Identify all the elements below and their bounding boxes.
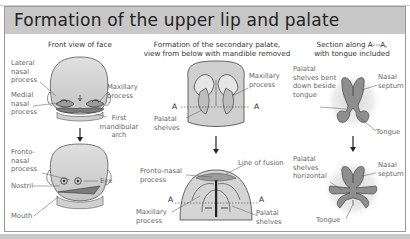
label-nostril: Nostril [11,182,33,191]
label-palatal-shelves-2: Palatal shelves [256,209,284,226]
label-fronto-nasal-process-2: Fronto-nasal process [140,167,190,184]
column-heading-secondary-palate: Formation of the secondary palate, view … [142,40,292,58]
heading-line-1: Section along A---A, [300,40,404,49]
label-medial-nasal-process: Medial nasal process [11,91,41,117]
column-heading-front-view: Front view of face [20,40,140,49]
down-arrow-1 [77,128,83,142]
heading-line-1: Formation of the secondary palate, [142,40,292,49]
down-arrow-3 [350,136,356,152]
label-maxillary-process-3: Maxillary process [136,208,172,225]
label-fronto-nasal-process: Fronto-nasal process [11,148,41,174]
section-marker-left: A [172,103,177,112]
section-marker-right-2: A [259,196,264,205]
label-palatal-shelves-horizontal: Palatal shelves horizontal [293,155,333,181]
label-first-mandibular-arch: First mandibular arch [99,114,139,140]
label-mouth: Mouth [11,212,32,221]
label-nasal-septum: Nasal septum [378,73,406,90]
section-marker-left-2: A [168,196,173,205]
label-tongue: Tongue [376,128,400,137]
label-eye: Eye [100,177,113,186]
label-nasal-septum-2: Nasal septum [378,161,406,178]
illustrations [0,0,410,239]
label-palatal-shelves-bent-down: Palatal shelves bent down beside tongue [293,65,339,99]
heading-line-2: view from below with mandible removed [142,49,292,58]
column-heading-section: Section along A---A, with tongue include… [300,40,404,58]
label-line-of-fusion: Line of fusion [238,159,284,168]
label-lateral-nasal-process: Lateral nasal process [11,59,41,85]
bottom-bar [0,234,410,239]
label-maxillary-process-2: Maxillary process [249,72,281,89]
face-early-illustration [33,57,110,121]
label-tongue-2: Tongue [316,216,340,225]
heading-line-2: with tongue included [300,49,404,58]
section-marker-right: A [254,103,259,112]
down-arrow-2 [213,136,219,154]
label-palatal-shelves: Palatal shelves [154,115,184,132]
palate-early-illustration [181,61,250,127]
label-maxillary-process: Maxillary process [107,83,141,100]
